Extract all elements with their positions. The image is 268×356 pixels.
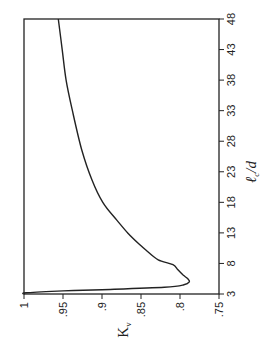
kv-tick-label: .85 <box>135 302 147 317</box>
lcd-tick-label: 18 <box>225 196 237 208</box>
lcd-tick-label: 23 <box>225 166 237 178</box>
lcd-tick-label: 33 <box>225 105 237 117</box>
lcd-tick-label: 28 <box>225 135 237 147</box>
kv-tick-label: .9 <box>96 302 108 311</box>
lcd-tick-label: 13 <box>225 227 237 239</box>
kv-tick-label: .95 <box>57 302 69 317</box>
kv-axis-title: Kv <box>115 322 133 338</box>
lcd-tick-label: 48 <box>225 13 237 25</box>
lcd-tick-label: 8 <box>225 260 237 266</box>
kv-axis-ticks: .75.8.85.9.951 <box>18 294 225 317</box>
lcd-tick-label: 38 <box>225 74 237 86</box>
plot-frame <box>24 19 219 294</box>
lcd-axis-title: ℓc/d <box>243 161 261 183</box>
kv-curve <box>23 19 190 294</box>
lcd-tick-label: 3 <box>225 291 237 297</box>
kv-tick-label: .8 <box>174 302 186 311</box>
kv-tick-label: 1 <box>18 302 30 308</box>
lcd-axis-ticks: 381318232833384348 <box>219 13 237 297</box>
lcd-tick-label: 43 <box>225 43 237 55</box>
chart: .75.8.85.9.951 381318232833384348 Kv ℓc/… <box>0 0 268 356</box>
kv-tick-label: .75 <box>213 302 225 317</box>
